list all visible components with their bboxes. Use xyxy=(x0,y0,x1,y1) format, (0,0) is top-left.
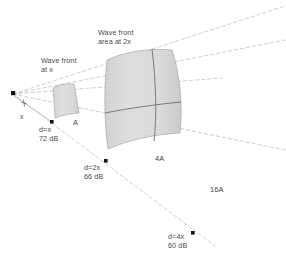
label-d-equals-x: d=x72 dB xyxy=(39,125,58,143)
label-db-4x-value: 60 dB xyxy=(168,241,187,250)
label-d-4x-value: d=4x xyxy=(168,232,184,241)
label-d-x-value: d=x xyxy=(39,125,51,134)
label-wavefront-area-at-2x: Wave front area at 2x xyxy=(98,28,133,46)
label-area-A: A xyxy=(73,118,78,127)
label-d-equals-4x: d=4x60 dB xyxy=(168,232,187,250)
label-wavefront-at-x: Wave front at x xyxy=(41,56,76,74)
label-d-2x-value: d=2x xyxy=(84,163,100,172)
label-area-16A: 16A xyxy=(210,185,223,194)
distance-x-tick xyxy=(21,100,27,107)
label-distance-x: x xyxy=(20,112,24,121)
source-point-marker xyxy=(11,91,15,95)
wave-front-diagram: Wave front area at 2x Wave front at x x … xyxy=(0,0,286,260)
label-area-4A: 4A xyxy=(155,154,164,163)
wavefront-area-4A xyxy=(105,49,181,149)
label-d-equals-2x: d=2x66 dB xyxy=(84,163,103,181)
marker-d-2x xyxy=(104,159,108,163)
marker-d-x xyxy=(50,120,54,124)
marker-d-4x xyxy=(191,231,195,235)
wavefront-area-A xyxy=(53,84,79,118)
label-db-2x-value: 66 dB xyxy=(84,172,103,181)
label-db-x-value: 72 dB xyxy=(39,134,58,143)
